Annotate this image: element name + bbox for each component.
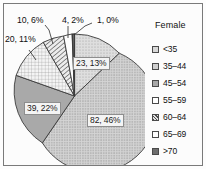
slice-label-60-64: 10, 6% [17,15,43,25]
legend-label-45-54: 45–54 [163,79,186,88]
legend-label-65-69: 65–69 [163,130,186,139]
legend-item-60-64[interactable]: 60–64 [152,112,186,123]
legend-label-gt70: >70 [163,147,177,156]
slice-label-35-44: 82, 46% [87,114,124,127]
legend-swatch-55-59 [152,97,159,104]
legend-title: Female [155,20,186,30]
legend-item-45-54[interactable]: 45–54 [152,78,186,89]
legend-swatch-60-64 [152,114,159,121]
legend-item-55-59[interactable]: 55–59 [152,95,186,106]
slice-label-lt35: 23, 13% [73,57,110,70]
slice-label-45-54: 39, 22% [24,102,61,115]
slice-label-gt70: 1, 0% [97,15,119,25]
slice-label-65-69: 4, 2% [62,15,84,25]
legend-swatch-gt70 [152,148,159,155]
legend-item-gt70[interactable]: >70 [152,146,177,157]
legend-item-lt35[interactable]: <35 [152,44,177,55]
legend-swatch-65-69 [152,131,159,138]
legend-label-35-44: 35–44 [163,62,186,71]
pie-plot-area: 23, 13% 82, 46% 39, 22% 20, 11% 10, 6% 4… [4,4,145,165]
pie-svg [4,4,145,165]
legend-swatch-lt35 [152,46,159,53]
legend-label-lt35: <35 [163,45,177,54]
legend-label-55-59: 55–59 [163,96,186,105]
slice-label-55-59: 20, 11% [5,34,36,44]
legend-swatch-45-54 [152,80,159,87]
legend-label-60-64: 60–64 [163,113,186,122]
pie-chart-figure: 23, 13% 82, 46% 39, 22% 20, 11% 10, 6% 4… [0,0,206,169]
legend-swatch-35-44 [152,63,159,70]
legend-item-65-69[interactable]: 65–69 [152,129,186,140]
pie-slices [14,34,145,165]
legend-item-35-44[interactable]: 35–44 [152,61,186,72]
legend: Female <35 35–44 45–54 55–59 60–64 65–69 [148,6,204,164]
